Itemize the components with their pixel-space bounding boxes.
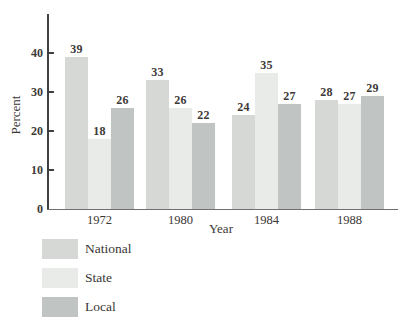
x-category-label-1988: 1988 (320, 213, 380, 227)
y-axis-line (47, 14, 49, 210)
y-tick-10 (47, 169, 54, 171)
y-tick-30 (47, 91, 54, 93)
x-category-label-1984: 1984 (237, 213, 297, 227)
bar-local-1972 (111, 108, 134, 209)
bar-state-1972 (88, 139, 111, 209)
y-tick-label-30: 30 (13, 86, 43, 98)
x-category-label-1980: 1980 (151, 213, 211, 227)
bar-value-state-1980: 26 (165, 94, 196, 106)
legend-swatch-national (42, 239, 78, 259)
legend-label-national: National (85, 239, 132, 259)
bar-state-1988 (338, 104, 361, 209)
bar-local-1980 (192, 123, 215, 209)
y-tick-20 (47, 130, 54, 132)
legend-swatch-state (42, 268, 78, 288)
bar-national-1984 (232, 115, 255, 209)
bar-value-local-1988: 29 (357, 82, 388, 94)
bar-value-national-1972: 39 (61, 43, 92, 55)
legend-label-state: State (85, 268, 112, 288)
bar-local-1988 (361, 96, 384, 209)
legend-label-local: Local (85, 297, 116, 317)
x-category-label-1972: 1972 (70, 213, 130, 227)
y-tick-label-40: 40 (13, 47, 43, 59)
bar-national-1988 (315, 100, 338, 209)
grouped-bar-chart: Percent Year 010203040391826197233262219… (0, 0, 409, 328)
y-tick-40 (47, 52, 54, 54)
bar-value-state-1984: 35 (251, 59, 282, 71)
bar-local-1984 (278, 104, 301, 209)
bar-state-1980 (169, 108, 192, 209)
bar-value-local-1984: 27 (274, 90, 305, 102)
bar-value-national-1980: 33 (142, 66, 173, 78)
y-tick-label-10: 10 (13, 164, 43, 176)
y-tick-label-20: 20 (13, 125, 43, 137)
y-tick-label-0: 0 (13, 203, 43, 215)
x-axis-line (47, 209, 398, 210)
bar-value-local-1980: 22 (188, 109, 219, 121)
bar-value-local-1972: 26 (107, 94, 138, 106)
legend-swatch-local (42, 297, 78, 317)
